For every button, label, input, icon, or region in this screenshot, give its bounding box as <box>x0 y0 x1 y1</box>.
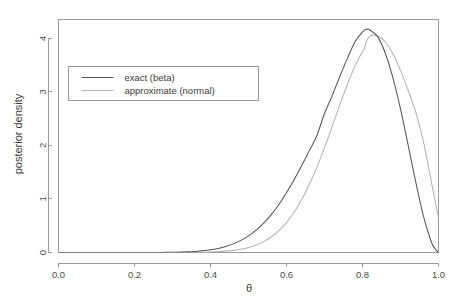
x-axis-label: θ <box>246 282 252 294</box>
y-tick-label: 4 <box>37 36 48 41</box>
x-tick-label: 0.8 <box>356 269 369 280</box>
y-axis-label: posterior density <box>12 93 24 174</box>
chart-legend: exact (beta)approximate (normal) <box>69 67 259 101</box>
plot-container: 0.00.20.40.60.81.0 01234 exact (beta)app… <box>0 0 455 304</box>
posterior-density-chart: 0.00.20.40.60.81.0 01234 exact (beta)app… <box>0 0 455 304</box>
x-tick-label: 0.6 <box>280 269 293 280</box>
y-tick-label: 0 <box>37 250 48 255</box>
x-tick-label: 1.0 <box>432 269 445 280</box>
legend-label: approximate (normal) <box>125 85 215 96</box>
chart-background <box>0 0 455 304</box>
y-tick-label: 2 <box>37 143 48 148</box>
x-tick-label: 0.0 <box>52 269 65 280</box>
legend-label: exact (beta) <box>125 72 175 83</box>
y-tick-label: 3 <box>37 89 48 94</box>
x-tick-label: 0.2 <box>128 269 141 280</box>
y-tick-label: 1 <box>37 196 48 201</box>
x-tick-label: 0.4 <box>204 269 217 280</box>
